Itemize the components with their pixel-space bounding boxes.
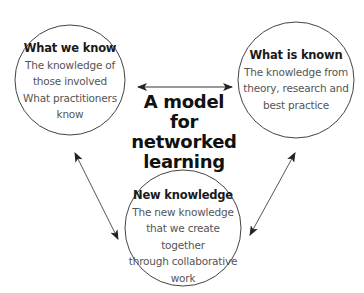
node-text-line: The new knowledge [126, 204, 240, 221]
node-heading: New knowledge [126, 187, 240, 204]
node-text-line: know [18, 106, 122, 123]
node-text-line: those involved [18, 73, 122, 90]
node-text-line: best practice [240, 97, 352, 114]
networked-learning-diagram: A model for networked learning What we k… [0, 0, 364, 293]
node-text-line: that we create together [126, 220, 240, 253]
diagram-title: A model for networked learning [128, 92, 240, 172]
node-text-line: What practitioners [18, 90, 122, 107]
node-text-line: through collaborative [126, 253, 240, 270]
node-what-is-known: What is known The knowledge from theory,… [240, 47, 352, 113]
arrow-right-bidirectional [250, 153, 295, 235]
node-text-line: The knowledge of [18, 57, 122, 74]
arrow-left-bidirectional [75, 153, 118, 239]
node-heading: What we know [18, 40, 122, 57]
node-text-line: work [126, 270, 240, 287]
node-new-knowledge: New knowledge The new knowledge that we … [126, 187, 240, 286]
title-line: networked [128, 132, 240, 152]
title-line: A model for [128, 92, 240, 132]
node-text-line: The knowledge from [240, 64, 352, 81]
node-what-we-know: What we know The knowledge of those invo… [18, 40, 122, 123]
node-text-line: theory, research and [240, 80, 352, 97]
node-heading: What is known [240, 47, 352, 64]
title-line: learning [128, 152, 240, 172]
